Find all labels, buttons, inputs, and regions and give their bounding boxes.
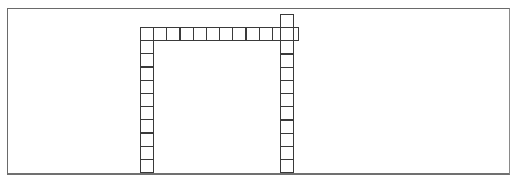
- top-row-cell: [166, 27, 180, 41]
- left-column-cell: [140, 53, 154, 67]
- left-column-cell: [140, 146, 154, 160]
- top-row-cell: [153, 27, 167, 41]
- left-column-cell: [140, 133, 154, 147]
- right-column-cell: [280, 67, 294, 81]
- top-row-cell: [259, 27, 273, 41]
- right-column-cell: [280, 14, 294, 28]
- right-column-cell: [280, 27, 294, 41]
- right-column-cell: [280, 133, 294, 147]
- right-column-cell: [280, 93, 294, 107]
- top-row-cell: [246, 27, 260, 41]
- top-row-cell: [140, 27, 154, 41]
- left-column-cell: [140, 93, 154, 107]
- right-column-cell: [280, 159, 294, 173]
- top-row-cell: [232, 27, 246, 41]
- top-row-cell: [206, 27, 220, 41]
- left-column-cell: [140, 80, 154, 94]
- left-column-cell: [140, 106, 154, 120]
- right-column-cell: [280, 54, 294, 68]
- right-column-cell: [280, 40, 294, 54]
- top-row-cell: [193, 27, 207, 41]
- top-row-cell: [219, 27, 233, 41]
- right-column-cell: [280, 106, 294, 120]
- left-column-cell: [140, 67, 154, 81]
- left-column-cell: [140, 40, 154, 54]
- right-column-cell: [280, 80, 294, 94]
- left-column-cell: [140, 159, 154, 173]
- left-column-cell: [140, 119, 154, 133]
- right-column-cell: [280, 120, 294, 134]
- right-column-cell: [280, 146, 294, 160]
- top-row-cell: [180, 27, 194, 41]
